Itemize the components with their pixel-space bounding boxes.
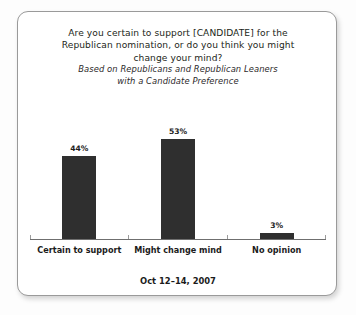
chart-title-block: Are you certain to support [CANDIDATE] f… — [28, 27, 328, 87]
bar-value-certain-to-support: 44% — [70, 144, 88, 153]
bar-value-might-change-mind: 53% — [169, 127, 187, 136]
bar-certain-to-support — [62, 156, 96, 239]
bar-slot-certain-to-support: 44% — [30, 122, 129, 239]
x-axis-tick-0 — [30, 235, 31, 239]
chart-title-line-3: change your mind? — [28, 52, 328, 64]
plot-area: 44% 53% 3% — [30, 122, 326, 240]
x-axis-line — [30, 239, 326, 240]
x-axis-labels: Certain to support Might change mind No … — [30, 245, 326, 255]
chart-title-line-2: Republican nomination, or do you think y… — [28, 39, 328, 51]
bar-slot-might-change-mind: 53% — [129, 122, 228, 239]
x-axis-label-might-change-mind: Might change mind — [129, 245, 228, 255]
bar-might-change-mind — [161, 139, 195, 239]
x-axis-label-certain-to-support: Certain to support — [30, 245, 129, 255]
x-axis-label-no-opinion: No opinion — [227, 245, 326, 255]
bar-slot-no-opinion: 3% — [227, 122, 326, 239]
x-axis-tick-3 — [325, 235, 326, 239]
chart-card: Are you certain to support [CANDIDATE] f… — [17, 11, 337, 296]
chart-subtitle-line-1: Based on Republicans and Republican Lean… — [28, 64, 328, 75]
x-axis-tick-2 — [227, 235, 228, 239]
chart-footnote: Oct 12–14, 2007 — [18, 276, 337, 286]
screenshot-root: Are you certain to support [CANDIDATE] f… — [0, 0, 356, 315]
x-axis-tick-1 — [128, 235, 129, 239]
bar-value-no-opinion: 3% — [270, 221, 283, 230]
bar-group: 44% 53% 3% — [30, 122, 326, 239]
chart-title-line-1: Are you certain to support [CANDIDATE] f… — [28, 27, 328, 39]
chart-subtitle-line-2: with a Candidate Preference — [28, 76, 328, 87]
